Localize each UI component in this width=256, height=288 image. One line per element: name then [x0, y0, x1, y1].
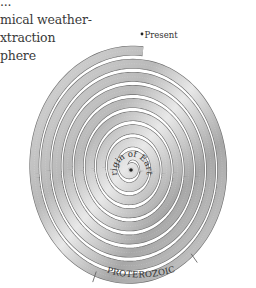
spiral-timeline-diagram: Origin of Earth PROTEROZOIC Present — [0, 0, 256, 288]
origin-point-icon — [129, 168, 133, 172]
present-marker-icon — [141, 33, 144, 36]
present-label: Present — [145, 30, 179, 40]
spiral-bands — [34, 51, 222, 282]
